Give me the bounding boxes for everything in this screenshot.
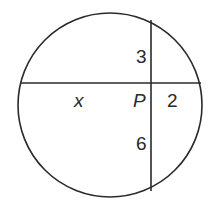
label-segment-top: 3: [136, 46, 147, 67]
label-point-p: P: [133, 90, 146, 111]
label-segment-left: x: [73, 90, 85, 111]
label-segment-bottom: 6: [136, 133, 147, 154]
circle-chords-diagram: 3 x P 2 6: [0, 0, 215, 211]
label-segment-right: 2: [167, 90, 178, 111]
